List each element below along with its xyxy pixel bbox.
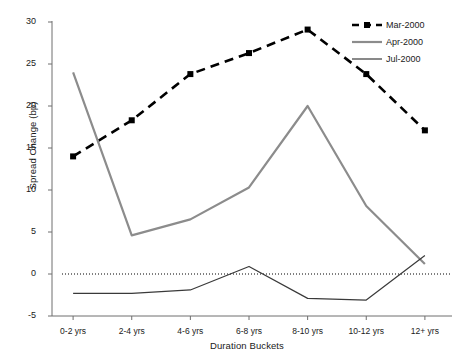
spread-change-line-chart: Spread Change (bp) 302520151050-5 0-2 yr… [0,0,454,360]
x-axis-tick-label: 4-6 yrs [158,326,222,336]
legend-item: Apr-2000 [352,33,452,50]
x-axis-title: Duration Buckets [40,340,454,351]
x-axis-tick-label: 2-4 yrs [100,326,164,336]
legend-item: Jul-2000 [352,50,452,67]
legend-marker [364,22,370,28]
legend-label: Jul-2000 [382,54,421,64]
legend: Mar-2000Apr-2000Jul-2000 [352,16,452,67]
legend-label: Apr-2000 [382,37,423,47]
x-axis-tick-label: 8-10 yrs [276,326,340,336]
x-axis-tick-label: 12+ yrs [393,326,454,336]
legend-item: Mar-2000 [352,16,452,33]
solid-dark-line-icon [352,53,382,65]
x-axis-tick-label: 6-8 yrs [217,326,281,336]
legend-label: Mar-2000 [382,20,425,30]
dashed-line-square-marker-icon [352,19,382,31]
solid-gray-line-icon [352,36,382,48]
x-axis-tick-label: 10-12 yrs [334,326,398,336]
x-axis-tick-label: 0-2 yrs [41,326,105,336]
